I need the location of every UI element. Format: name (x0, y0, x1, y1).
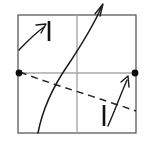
phase-plane-canvas (0, 0, 144, 141)
right-equilibrium-dot (132, 70, 139, 77)
dashed-nullcline-curve (20, 72, 136, 111)
lower-right-flow-arrow (108, 80, 127, 126)
solid-trajectory-curve (38, 6, 102, 133)
phase-plane-figure (0, 0, 144, 141)
left-equilibrium-dot (16, 70, 23, 77)
upper-left-flow-arrow (19, 27, 44, 50)
